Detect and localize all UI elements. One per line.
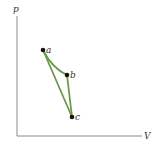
point-b [65, 73, 70, 78]
point-c [70, 115, 75, 120]
pv-diagram: p V a b c [0, 0, 161, 145]
point-b-label: b [70, 70, 76, 80]
point-c-label: c [75, 112, 80, 122]
point-a [41, 48, 46, 53]
x-axis-label: V [144, 131, 152, 141]
point-a-label: a [46, 45, 51, 55]
y-axis-label: p [13, 4, 19, 14]
